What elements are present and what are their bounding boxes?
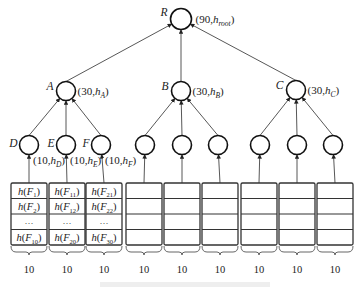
cropped-caption (100, 282, 270, 287)
bucket-brace (279, 246, 315, 255)
hash-tree-diagram: h(F1)h(F2)···h(F10)10h(F11)h(F12)···h(F2… (0, 0, 363, 289)
bucket-entry: h(F22) (91, 201, 117, 214)
leaf-node-1-0 (136, 136, 155, 155)
leaf-node-1-1 (173, 136, 192, 155)
bucket-entry: h(F10) (16, 232, 42, 245)
leaf-node-0-1 (57, 136, 76, 155)
edge-leaf-1-0 (145, 98, 175, 135)
group-annotation-A: (30,hA) (78, 85, 110, 100)
bucket-entry: ··· (63, 218, 72, 228)
leaf-node-0-0 (20, 136, 39, 155)
edge-leaf-0-0 (29, 98, 60, 135)
edge-C-to-root (190, 24, 296, 81)
edge-bucket-0-2 (102, 154, 104, 183)
bucket-brace (11, 246, 47, 255)
leaf-node-0-2 (92, 136, 111, 155)
bucket-brace (241, 246, 277, 255)
bucket-brace (86, 246, 122, 255)
bucket-entry: h(F20) (54, 232, 80, 245)
bucket-entry: h(F1) (18, 186, 40, 199)
leaf-label-E: E (46, 137, 54, 149)
leaf-label-F: F (81, 137, 90, 149)
leaf-node-2-0 (251, 136, 270, 155)
edge-leaf-0-2 (72, 98, 101, 135)
edge-bucket-2-2 (333, 154, 335, 183)
edge-bucket-1-2 (218, 154, 220, 183)
leaf-node-2-1 (288, 136, 307, 155)
root-node-R (171, 9, 192, 30)
bucket-entry: ··· (100, 218, 109, 228)
group-label-C: C (276, 79, 284, 91)
bucket-brace (49, 246, 85, 255)
edge-leaf-1-2 (187, 98, 218, 135)
bucket-brace (317, 246, 353, 255)
bucket-brace (164, 246, 200, 255)
leaf-buckets: h(F1)h(F2)···h(F10)10h(F11)h(F12)···h(F2… (11, 183, 353, 275)
bucket-brace (202, 246, 238, 255)
edge-leaf-2-0 (260, 97, 290, 135)
root-label: R (159, 6, 167, 18)
bucket-count: 10 (24, 264, 35, 275)
group-label-B: B (161, 80, 168, 92)
leaf-node-2-2 (324, 136, 343, 155)
edge-bucket-2-0 (259, 154, 260, 183)
group-node-B (172, 82, 191, 101)
edge-A-to-root (66, 24, 172, 81)
edge-leaf-2-2 (302, 97, 333, 135)
bucket-entry: h(F30) (91, 232, 117, 245)
leaf-annotation-F: (10,hF) (105, 154, 137, 169)
bucket-count: 10 (330, 264, 341, 275)
bucket-entry: h(F11) (55, 186, 80, 199)
root-annotation: (90,hroot) (196, 13, 235, 28)
bucket-count: 10 (62, 264, 73, 275)
edge-leaf-2-1 (296, 99, 297, 135)
edge-bucket-0-1 (66, 154, 67, 183)
bucket-count: 10 (215, 264, 226, 275)
group-annotation-B: (30,hB) (193, 85, 225, 100)
leaf-label-D: D (8, 137, 18, 149)
bucket-entry: ··· (25, 218, 34, 228)
leaf-annotation-E: (10,hE) (70, 154, 102, 169)
bucket-count: 10 (254, 264, 265, 275)
group-node-C (287, 81, 306, 100)
bucket-count: 10 (139, 264, 150, 275)
group-label-A: A (45, 80, 54, 92)
leaf-annotation-D: (10,hD) (33, 154, 65, 169)
group-annotation-C: (30,hC) (308, 84, 340, 99)
bucket-count: 10 (292, 264, 303, 275)
bucket-entry: h(F21) (91, 186, 117, 199)
bucket-count: 10 (177, 264, 188, 275)
edge-bucket-1-0 (144, 154, 145, 183)
bucket-entry: h(F2) (18, 201, 40, 214)
group-node-A (57, 82, 76, 101)
bucket-brace (126, 246, 162, 255)
bucket-count: 10 (99, 264, 110, 275)
bucket-entry: h(F12) (54, 201, 80, 214)
edge-leaf-1-1 (181, 100, 182, 135)
leaf-node-1-2 (209, 136, 228, 155)
